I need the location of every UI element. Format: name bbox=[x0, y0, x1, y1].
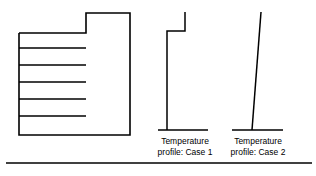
caption-case-2: Temperature profile: Case 2 bbox=[214, 136, 302, 157]
building-floor-lines bbox=[19, 48, 86, 116]
case2-profile-line bbox=[252, 12, 261, 130]
building-cross-section bbox=[19, 13, 130, 135]
temperature-profile-case-1-drawing bbox=[158, 12, 208, 130]
figure-container: Temperature profile: Case 1 Temperature … bbox=[0, 0, 316, 176]
temperature-profile-case-2-drawing bbox=[232, 12, 283, 130]
caption-case-2-line-2: profile: Case 2 bbox=[214, 147, 302, 158]
caption-case-2-line-1: Temperature bbox=[214, 136, 302, 147]
case1-profile-path bbox=[167, 12, 185, 130]
